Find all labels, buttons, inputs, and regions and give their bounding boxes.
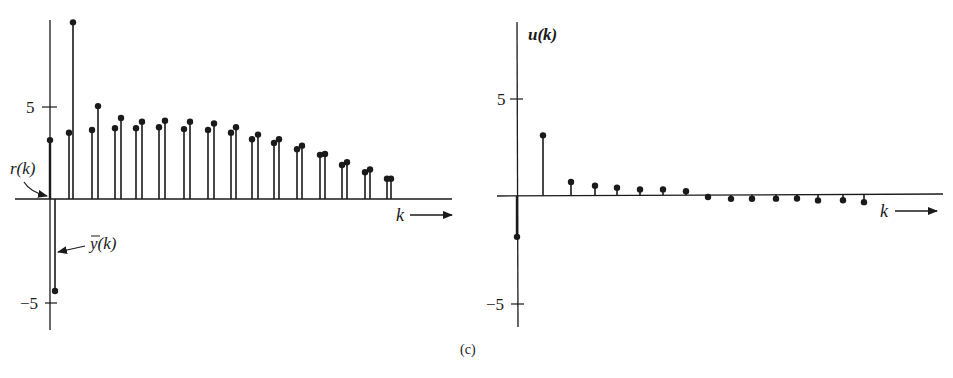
r-k6-marker bbox=[181, 126, 187, 132]
u-k9-marker bbox=[728, 196, 734, 202]
left-k-label: k bbox=[396, 205, 405, 225]
u-k11-marker bbox=[773, 195, 779, 201]
ybar-k2-marker bbox=[95, 103, 101, 109]
r-k5-marker bbox=[156, 124, 162, 130]
left-tick-label-m5: −5 bbox=[20, 294, 38, 313]
right-k-label: k bbox=[880, 201, 889, 221]
r-arrow-icon bbox=[24, 182, 47, 196]
ybar-k12-marker bbox=[322, 151, 328, 157]
u-k12-marker bbox=[794, 195, 800, 201]
ybar-k9-marker bbox=[255, 131, 261, 137]
ybar-k6-marker bbox=[187, 119, 193, 125]
right-tick-label-m5: −5 bbox=[486, 295, 504, 314]
ybar-k10-marker bbox=[276, 136, 282, 142]
right-chart: 5 −5 u(k) k bbox=[486, 22, 943, 327]
ybar-label: y(k) bbox=[88, 234, 117, 253]
u-k3-marker bbox=[592, 183, 598, 189]
r-k3-marker bbox=[112, 125, 118, 131]
ybar-k7-marker bbox=[211, 120, 217, 126]
ybar-k15-marker bbox=[388, 176, 394, 182]
r-k9-marker bbox=[249, 136, 255, 142]
u-k6-marker bbox=[660, 186, 666, 192]
left-tick-label-5: 5 bbox=[26, 98, 35, 117]
r-k1-marker bbox=[66, 130, 72, 136]
r-k2-marker bbox=[89, 127, 95, 133]
ybar-k14-marker bbox=[367, 166, 373, 172]
r-k7-marker bbox=[205, 127, 211, 133]
right-y-axis bbox=[517, 22, 518, 327]
r-k0-marker bbox=[47, 137, 53, 143]
u-k8-marker bbox=[705, 194, 711, 200]
ybar-k4-marker bbox=[139, 119, 145, 125]
u-k5-marker bbox=[637, 186, 643, 192]
right-stems bbox=[514, 132, 867, 240]
u-k4-marker bbox=[614, 184, 620, 190]
r-label: r(k) bbox=[10, 159, 36, 178]
r-k4-marker bbox=[133, 125, 139, 131]
ybar-k1-marker bbox=[70, 19, 76, 25]
ybar-arrow-icon bbox=[58, 246, 85, 252]
ybar-k8-marker bbox=[233, 124, 239, 130]
left-chart: 5 −5 r(k) y(k) k bbox=[10, 19, 452, 330]
u-k1-marker bbox=[540, 132, 546, 138]
ybar-k3-marker bbox=[118, 115, 124, 121]
figure: 5 −5 r(k) y(k) k 5 −5 u(k) k (c) bbox=[0, 0, 953, 378]
ybar-k5-marker bbox=[162, 118, 168, 124]
u-k2-marker bbox=[568, 179, 574, 185]
u-k13-marker bbox=[815, 197, 821, 203]
ybar-k0-marker bbox=[52, 288, 58, 294]
ybar-k11-marker bbox=[299, 142, 305, 148]
right-ylabel: u(k) bbox=[528, 25, 557, 44]
u-k7-marker bbox=[683, 188, 689, 194]
u-k0-marker bbox=[514, 234, 520, 240]
right-x-axis bbox=[497, 194, 943, 196]
u-k10-marker bbox=[749, 196, 755, 202]
u-k15-marker bbox=[861, 199, 867, 205]
ybar-k13-marker bbox=[344, 159, 350, 165]
right-tick-label-5: 5 bbox=[497, 90, 506, 109]
figure-label: (c) bbox=[460, 342, 476, 358]
r-k8-marker bbox=[228, 130, 234, 136]
u-k14-marker bbox=[840, 197, 846, 203]
